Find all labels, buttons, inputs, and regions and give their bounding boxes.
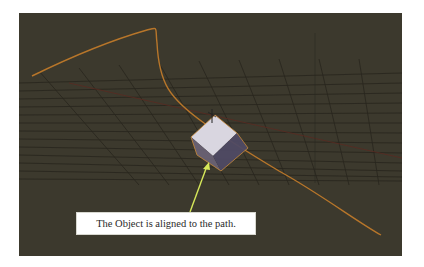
annotation-text: The Object is aligned to the path. [96,218,236,229]
cube-object [191,109,248,171]
annotation-callout: The Object is aligned to the path. [76,212,256,235]
annotation-arrow [190,166,207,212]
arrow-head-icon [203,162,210,170]
3d-viewport[interactable]: The Object is aligned to the path. [19,13,402,256]
